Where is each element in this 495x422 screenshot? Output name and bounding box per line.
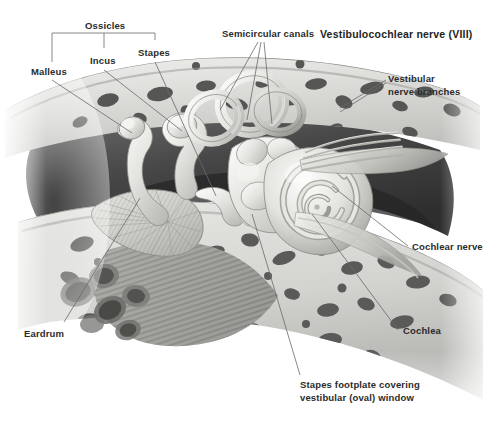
label-semicircular-canals: Semicircular canals: [222, 28, 314, 41]
label-stapes: Stapes: [138, 47, 170, 60]
label-stapes-footplate: Stapes footplate covering vestibular (ov…: [300, 379, 490, 404]
ear-anatomy-figure: Ossicles Malleus Incus Stapes Semicircul…: [0, 0, 495, 422]
label-vestibular-nerve-branches-line2: nerve branches: [388, 86, 460, 97]
label-vestibular-nerve-branches: Vestibular nerve branches: [388, 73, 488, 98]
label-cochlea: Cochlea: [403, 325, 441, 338]
ear-anatomy-illustration: [0, 0, 495, 422]
label-stapes-footplate-line2: vestibular (oval) window: [300, 392, 414, 403]
label-stapes-footplate-line1: Stapes footplate covering: [300, 379, 420, 390]
label-incus: Incus: [90, 55, 116, 68]
label-malleus: Malleus: [31, 66, 67, 79]
label-vestibular-nerve-branches-line1: Vestibular: [388, 73, 435, 84]
label-cochlear-nerve: Cochlear nerve: [412, 241, 483, 254]
label-ossicles: Ossicles: [85, 20, 125, 33]
figure-title: Vestibulocochlear nerve (VIII): [320, 28, 472, 40]
label-eardrum: Eardrum: [24, 328, 64, 341]
